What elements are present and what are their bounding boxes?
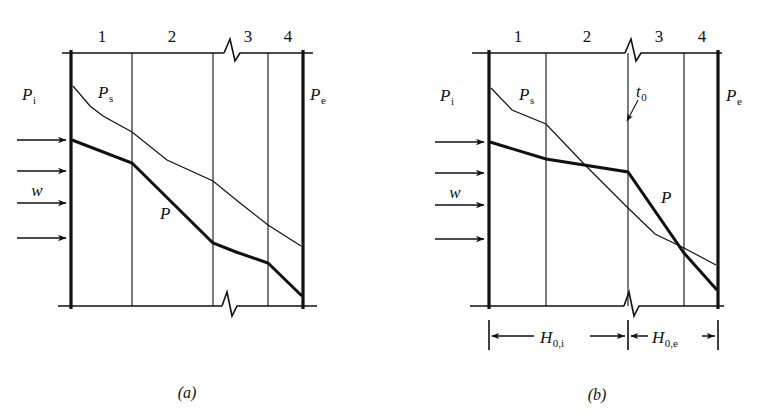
panel-b-label-total-pressure: P: [660, 188, 671, 207]
panel-a-caption: (a): [178, 384, 197, 402]
panel-a-label-exit-pressure: Pe: [309, 85, 326, 106]
panel-b-top-break-icon: [625, 39, 722, 61]
panel-a-label-flow-rate: w: [31, 181, 43, 200]
panel-b-section-number-3: 3: [655, 27, 664, 46]
panel-b-bottom-break-icon: [624, 292, 724, 316]
panel-b-section-number-2: 2: [583, 27, 592, 46]
panel-a-section-number-1: 1: [98, 27, 107, 46]
panel-b-label-flow-rate: w: [449, 183, 461, 202]
panel-a-label-inlet-pressure: Pi: [21, 85, 36, 106]
panel-a-section-number-4: 4: [284, 27, 293, 46]
panel-b-label-exit-pressure: Pe: [725, 86, 742, 107]
panel-a: 1 2 3 4 Pi Pe Ps P w (a): [17, 27, 326, 402]
panel-b-curve-ps: [491, 88, 716, 265]
panel-b-section-number-1: 1: [514, 27, 523, 46]
panel-b-curve-p: [490, 142, 717, 290]
panel-a-section-number-3: 3: [244, 27, 253, 46]
panel-b-t0-leader-line: [627, 100, 638, 121]
pressure-diagram-svg: 1 2 3 4 Pi Pe Ps P w (a): [0, 0, 758, 419]
panel-a-label-static-pressure: Ps: [97, 83, 113, 104]
panel-b-caption: (b): [588, 386, 607, 404]
panel-b: 1 2 3 4 Pi Pe Ps t0 P w: [435, 27, 742, 404]
panel-a-curve-ps: [73, 86, 301, 246]
panel-b-label-inlet-pressure: Pi: [439, 86, 454, 107]
panel-a-label-total-pressure: P: [159, 204, 170, 223]
figure-root: 1 2 3 4 Pi Pe Ps P w (a): [0, 0, 758, 419]
panel-b-label-static-pressure: Ps: [518, 85, 534, 106]
panel-a-section-number-2: 2: [168, 27, 177, 46]
panel-b-label-temperature: t0: [636, 82, 647, 103]
panel-b-section-number-4: 4: [698, 27, 707, 46]
